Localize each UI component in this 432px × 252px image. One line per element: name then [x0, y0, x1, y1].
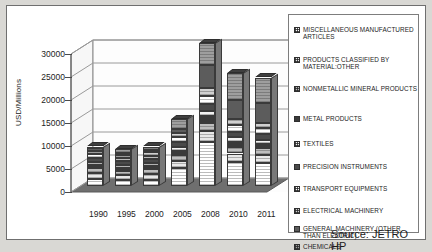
bar-segment — [115, 175, 131, 180]
bar-segment — [255, 144, 271, 149]
bar-segment — [143, 147, 159, 150]
bar-segment — [115, 168, 131, 171]
bar-segment — [171, 161, 187, 168]
plot-area: USD/Millions 300002500020000150001000050… — [7, 6, 293, 239]
bar-segment — [87, 168, 103, 173]
bar-segment — [115, 153, 131, 155]
bar-segment — [227, 73, 243, 100]
bar-segment — [87, 158, 103, 162]
bar-segment — [143, 156, 159, 160]
bar-segment — [199, 142, 215, 186]
bar-segment — [87, 147, 103, 149]
x-tick-label: 1995 — [111, 209, 141, 219]
bar-side-face — [271, 73, 278, 185]
bar-segment — [171, 155, 187, 161]
bar-segment — [171, 133, 187, 137]
legend-item[interactable]: METAL PRODUCTS — [294, 115, 418, 122]
bar-segment — [255, 123, 271, 129]
bar-segment — [87, 162, 103, 165]
y-tick-mark — [65, 54, 72, 55]
y-tick-mark — [65, 123, 72, 124]
y-tick-mark — [65, 77, 72, 78]
legend-swatch — [294, 27, 300, 33]
bar-segment — [171, 147, 187, 151]
x-tick-label: 2005 — [167, 209, 197, 219]
legend-label: TEXTILES — [303, 140, 334, 147]
x-tick-label: 2008 — [195, 209, 225, 219]
legend-swatch — [294, 244, 300, 250]
legend-swatch — [294, 116, 300, 122]
bar-segment — [143, 152, 159, 155]
y-tick-mark — [65, 146, 72, 147]
legend-swatch — [294, 57, 300, 63]
bar-segment — [87, 179, 103, 186]
y-tick-mark — [65, 192, 72, 193]
bar-side-face — [131, 145, 138, 186]
legend-item[interactable]: MISCELLANEOUS MANUFACTURED ARTICLES — [294, 26, 418, 41]
chart-frame: USD/Millions 300002500020000150001000050… — [6, 5, 426, 240]
bar-segment — [115, 171, 131, 176]
legend-swatch — [294, 226, 300, 232]
bar-segment — [143, 159, 159, 163]
bar-segment — [199, 43, 215, 65]
legend-label: PRODUCTS CLASSIFIED BY MATERIAL:OTHER — [303, 56, 418, 71]
bar-segment — [143, 163, 159, 166]
bar-side-face — [243, 69, 250, 186]
legend-label: MISCELLANEOUS MANUFACTURED ARTICLES — [303, 26, 418, 41]
legend-item[interactable]: ELECTRICAL MACHINERY — [294, 207, 418, 214]
bar-segment — [115, 155, 131, 158]
bar-segment — [143, 150, 159, 153]
legend-label: PRECISION INSTRUMENTS — [303, 163, 387, 170]
bar-segment — [143, 180, 159, 186]
bar-segment — [199, 65, 215, 88]
bar-segment — [87, 154, 103, 158]
bar-side-face — [187, 115, 194, 186]
bar-segment — [227, 119, 243, 125]
x-tick-label: 1990 — [83, 209, 113, 219]
bar-segment — [255, 128, 271, 134]
legend-item[interactable]: NONMETALLIC MINERAL PRODUCTS — [294, 85, 418, 92]
y-tick-mark — [65, 100, 72, 101]
bar-segment — [227, 132, 243, 138]
legend-swatch — [294, 208, 300, 214]
bar-segment — [255, 103, 271, 122]
bar-segment — [87, 165, 103, 168]
bar-segment — [255, 163, 271, 186]
legend-label: NONMETALLIC MINERAL PRODUCTS — [303, 85, 417, 92]
bar-segment — [143, 169, 159, 174]
bar-segment — [227, 154, 243, 162]
legend-swatch — [294, 164, 300, 170]
legend-label: ELECTRICAL MACHINERY — [303, 207, 383, 214]
x-tick-label: 2010 — [223, 209, 253, 219]
chart-legend: MISCELLANEOUS MANUFACTURED ARTICLESPRODU… — [288, 14, 419, 233]
bar-segment — [87, 148, 103, 150]
bar-segment — [255, 140, 271, 144]
bar-segment — [255, 134, 271, 139]
bar-segment — [227, 100, 243, 120]
legend-swatch — [294, 141, 300, 147]
bar-segment — [171, 137, 187, 142]
bar-segment — [115, 161, 131, 165]
bar-segment — [199, 96, 215, 104]
legend-item[interactable]: TEXTILES — [294, 140, 418, 147]
bar-segment — [87, 173, 103, 179]
bar-segment — [115, 165, 131, 168]
bar-segment — [143, 174, 159, 180]
legend-item[interactable]: PRECISION INSTRUMENTS — [294, 163, 418, 170]
bar-side-face — [103, 142, 110, 185]
bar-segment — [199, 88, 215, 95]
three-d-scene — [7, 6, 293, 239]
bar-segment — [171, 151, 187, 155]
legend-item[interactable]: TRANSPORT EQUIPMENTS — [294, 185, 418, 192]
bar-side-face — [159, 142, 166, 185]
bar-segment — [227, 147, 243, 154]
bar-segment — [227, 162, 243, 186]
bar-segment — [171, 142, 187, 147]
bar-segment — [199, 131, 215, 142]
bar-segment — [115, 180, 131, 186]
bar-segment — [171, 129, 187, 133]
bar-segment — [227, 125, 243, 131]
legend-item[interactable]: PRODUCTS CLASSIFIED BY MATERIAL:OTHER — [294, 56, 418, 71]
bar-segment — [227, 142, 243, 147]
legend-label: METAL PRODUCTS — [303, 115, 362, 122]
